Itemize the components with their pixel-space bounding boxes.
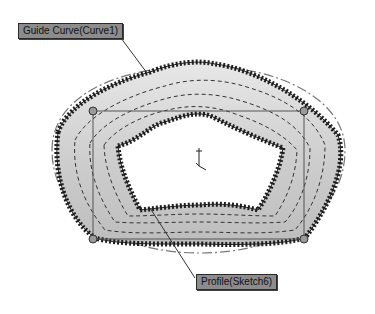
guide-curve-callout[interactable]: Guide Curve(Curve1) [18,23,123,39]
handle-top-left[interactable] [89,107,97,115]
coordinate-triad-icon [196,148,206,170]
handle-bottom-left[interactable] [89,235,97,243]
handle-top-right[interactable] [300,107,308,115]
profile-callout[interactable]: Profile(Sketch6) [196,274,277,290]
graphics-viewport[interactable]: Guide Curve(Curve1) Profile(Sketch6) [0,0,375,314]
handle-bottom-right[interactable] [300,235,308,243]
sweep-preview-canvas[interactable] [0,0,375,314]
